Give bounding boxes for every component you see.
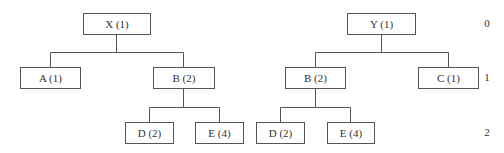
node-a: A (1) <box>20 67 81 89</box>
node-x: X (1) <box>83 13 151 35</box>
level-label-2: 2 <box>482 126 492 138</box>
node-e-left: E (4) <box>195 122 244 144</box>
node-d-left: D (2) <box>125 122 174 144</box>
node-d-right: D (2) <box>256 122 305 144</box>
level-label-1: 1 <box>482 71 492 83</box>
level-label-0: 0 <box>482 17 492 29</box>
node-y: Y (1) <box>347 13 416 35</box>
node-c: C (1) <box>418 67 479 89</box>
node-e-right: E (4) <box>327 122 375 144</box>
node-b-left: B (2) <box>153 67 215 89</box>
node-b-right: B (2) <box>285 67 346 89</box>
